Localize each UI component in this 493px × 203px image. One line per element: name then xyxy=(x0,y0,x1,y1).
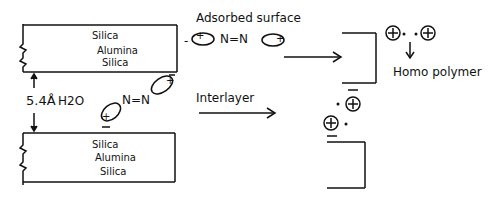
bottom-layer-silica-1: Silica xyxy=(92,140,118,150)
interlayer-ring-charge-upper: + xyxy=(166,76,174,86)
homo-polymer-arrow xyxy=(406,42,414,58)
surface-ring-charge-left: + xyxy=(196,31,204,41)
right-bracket-top xyxy=(342,33,376,83)
spacing-value-label: 5.4Å xyxy=(26,94,56,107)
top-layer-silica-2: Silica xyxy=(102,58,128,68)
interlayer-label: Interlayer xyxy=(196,92,254,104)
adsorbed-arrow xyxy=(284,52,341,62)
homo-polymer-label: Homo polymer xyxy=(393,66,482,78)
radical-dots xyxy=(337,33,418,126)
surface-negative-charge: - xyxy=(184,35,188,47)
radical-cation-pair-interlayer xyxy=(324,90,360,136)
top-layer-alumina: Alumina xyxy=(97,46,138,56)
surface-ring-charge-right: + xyxy=(276,34,284,44)
interlayer-azo-bond: N=N xyxy=(122,94,150,106)
adsorbed-surface-label: Adsorbed surface xyxy=(196,12,301,24)
water-label: H2O xyxy=(58,95,84,107)
right-bracket-bottom xyxy=(327,142,365,188)
top-layer-silica-1: Silica xyxy=(92,31,118,41)
bottom-layer-alumina: Alumina xyxy=(95,153,136,163)
bottom-layer-silica-2: Silica xyxy=(100,167,126,177)
radical-cation-pair-top xyxy=(386,26,435,40)
surface-azo-bond: N=N xyxy=(220,33,248,45)
interlayer-ring-charge-lower: + xyxy=(102,112,110,122)
interlayer-arrow xyxy=(199,108,275,118)
